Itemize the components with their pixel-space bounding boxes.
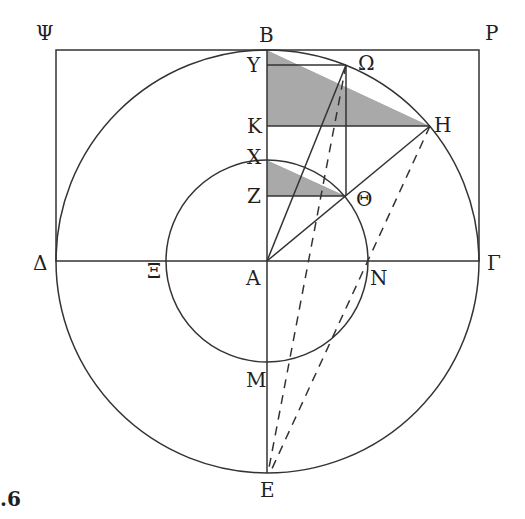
label-e: E — [260, 478, 275, 502]
label-y: Y — [246, 53, 261, 77]
label-z: Z — [247, 184, 261, 208]
label-gamma: Γ — [487, 251, 501, 275]
label-omega: Ω — [358, 51, 375, 75]
label-b: B — [259, 23, 274, 47]
label-p: P — [485, 21, 498, 45]
figure-caption: .6 — [0, 487, 21, 511]
label-psi: Ψ — [36, 21, 54, 45]
label-x: X — [247, 145, 262, 169]
geometric-diagram: Ψ B P Y Ω K H X Z Θ Δ Ξ A N Γ M E .6 — [0, 0, 525, 519]
label-a: A — [245, 266, 261, 290]
label-theta: Θ — [356, 187, 372, 211]
label-n: N — [370, 266, 388, 290]
label-xi: Ξ — [147, 259, 161, 283]
label-h: H — [434, 113, 451, 137]
label-delta: Δ — [33, 251, 47, 275]
label-m: M — [246, 368, 266, 392]
label-k: K — [247, 114, 263, 138]
